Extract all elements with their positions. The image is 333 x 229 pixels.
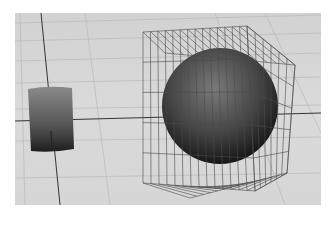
lattice-edge [158,31,184,55]
3d-viewport[interactable] [15,13,321,205]
lattice-edge [287,65,295,173]
lattice-edge [150,32,151,184]
lattice-edge [167,185,211,193]
lattice-edge [158,31,159,184]
lattice-edge [282,59,287,177]
lattice-edge [165,31,193,56]
cylinder-object[interactable] [28,87,74,152]
